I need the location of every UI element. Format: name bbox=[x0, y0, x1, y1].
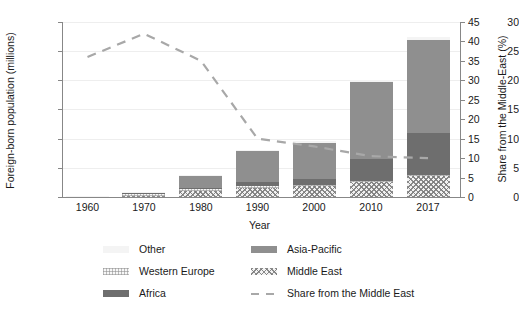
y-right-tick-5 bbox=[461, 178, 465, 179]
share-from-middle-east-line bbox=[63, 22, 460, 197]
y-right-tick-0 bbox=[461, 197, 465, 198]
x-axis bbox=[62, 197, 461, 198]
x-ticklabel-1960: 1960 bbox=[58, 201, 118, 213]
y-axis-left-title: Foreign-born population (millions) bbox=[4, 23, 18, 198]
y-right-ticklabel: 25 bbox=[468, 95, 492, 105]
y-right-ticklabel: 45 bbox=[468, 17, 492, 27]
middle-east-swatch bbox=[251, 268, 277, 275]
legend-label: Middle East bbox=[287, 265, 342, 278]
y-axis-right-title: Share from the Middle-East (%) bbox=[496, 20, 510, 198]
y-right-ticklabel: 30 bbox=[468, 75, 492, 85]
y-right-ticklabel: 15 bbox=[468, 134, 492, 144]
y-right-tick-10 bbox=[461, 158, 465, 159]
y-left-tick-10 bbox=[58, 139, 62, 140]
asia-pacific-swatch bbox=[251, 246, 277, 253]
y-right-ticklabel: 0 bbox=[468, 192, 492, 202]
dashed-line-swatch bbox=[251, 293, 277, 295]
x-ticklabel-2000: 2000 bbox=[284, 201, 344, 213]
legend-label: Asia-Pacific bbox=[287, 243, 342, 256]
western-europe-swatch bbox=[103, 268, 129, 275]
y-right-tick-40 bbox=[461, 41, 465, 42]
legend-label: Share from the Middle East bbox=[287, 287, 414, 300]
legend-label: Africa bbox=[139, 287, 166, 300]
y-left-tick-15 bbox=[58, 109, 62, 110]
y-right-tick-25 bbox=[461, 100, 465, 101]
legend-label: Other bbox=[139, 243, 165, 256]
y-right-tick-35 bbox=[461, 61, 465, 62]
chart-figure: 30 25 20 15 10 5 0 45 40 35 30 25 20 15 … bbox=[0, 0, 519, 323]
y-right-ticklabel: 10 bbox=[468, 153, 492, 163]
y-right-ticklabel: 20 bbox=[468, 114, 492, 124]
other-swatch bbox=[103, 246, 129, 253]
x-ticklabel-2010: 2010 bbox=[341, 201, 401, 213]
y-right-ticklabel: 40 bbox=[468, 36, 492, 46]
y-left-tick-20 bbox=[58, 80, 62, 81]
africa-swatch bbox=[103, 290, 129, 297]
x-axis-title: Year bbox=[0, 219, 519, 231]
y-left-tick-25 bbox=[58, 51, 62, 52]
y-left-tick-0 bbox=[58, 197, 62, 198]
y-right-tick-15 bbox=[461, 139, 465, 140]
x-ticklabel-1970: 1970 bbox=[114, 201, 174, 213]
y-axis-left bbox=[62, 22, 63, 198]
y-right-tick-45 bbox=[461, 22, 465, 23]
y-axis-right bbox=[460, 22, 461, 198]
x-ticklabel-1990: 1990 bbox=[228, 201, 288, 213]
x-ticklabel-2017: 2017 bbox=[398, 201, 458, 213]
y-right-ticklabel: 5 bbox=[468, 173, 492, 183]
y-right-tick-20 bbox=[461, 119, 465, 120]
y-right-tick-30 bbox=[461, 80, 465, 81]
y-left-tick-5 bbox=[58, 168, 62, 169]
legend-label: Western Europe bbox=[139, 265, 215, 278]
y-left-tick-30 bbox=[58, 22, 62, 23]
plot-area bbox=[63, 22, 460, 197]
x-ticklabel-1980: 1980 bbox=[171, 201, 231, 213]
y-right-ticklabel: 35 bbox=[468, 56, 492, 66]
